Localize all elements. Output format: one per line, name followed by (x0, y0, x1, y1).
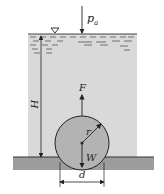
buoyant-force-label: F (78, 82, 87, 93)
diagram-canvas: pa H F r W d (0, 0, 164, 194)
pressure-label: pa (87, 12, 98, 27)
diameter-label: d (79, 169, 85, 180)
weight-label: W (86, 152, 97, 163)
free-surface-icon (51, 28, 59, 33)
depth-label: H (29, 99, 40, 109)
